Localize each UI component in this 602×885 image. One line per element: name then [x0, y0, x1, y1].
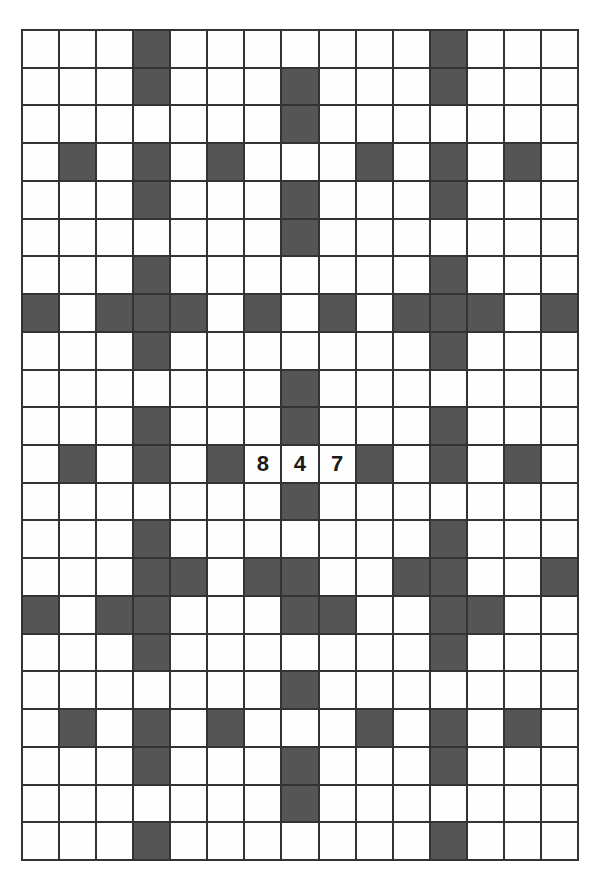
empty-cell[interactable] [357, 521, 392, 557]
empty-cell[interactable] [542, 484, 577, 520]
empty-cell[interactable] [171, 446, 206, 482]
empty-cell[interactable] [245, 182, 280, 218]
empty-cell[interactable] [357, 371, 392, 407]
empty-cell[interactable] [97, 559, 132, 595]
empty-cell[interactable] [394, 823, 429, 859]
empty-cell[interactable] [542, 672, 577, 708]
empty-cell[interactable] [245, 823, 280, 859]
empty-cell[interactable] [23, 31, 58, 67]
empty-cell[interactable] [320, 710, 355, 746]
empty-cell[interactable] [468, 69, 503, 105]
empty-cell[interactable] [357, 672, 392, 708]
empty-cell[interactable] [468, 182, 503, 218]
empty-cell[interactable] [542, 220, 577, 256]
empty-cell[interactable] [320, 748, 355, 784]
empty-cell[interactable] [23, 69, 58, 105]
empty-cell[interactable] [505, 408, 540, 444]
empty-cell[interactable] [505, 484, 540, 520]
empty-cell[interactable] [171, 823, 206, 859]
empty-cell[interactable] [357, 220, 392, 256]
empty-cell[interactable] [320, 823, 355, 859]
empty-cell[interactable] [357, 408, 392, 444]
empty-cell[interactable] [208, 408, 243, 444]
empty-cell[interactable] [357, 597, 392, 633]
empty-cell[interactable] [394, 106, 429, 142]
empty-cell[interactable] [60, 823, 95, 859]
empty-cell[interactable] [431, 484, 466, 520]
empty-cell[interactable] [394, 672, 429, 708]
empty-cell[interactable] [60, 69, 95, 105]
empty-cell[interactable] [245, 786, 280, 822]
empty-cell[interactable] [282, 257, 317, 293]
empty-cell[interactable] [468, 31, 503, 67]
empty-cell[interactable] [357, 748, 392, 784]
empty-cell[interactable] [505, 521, 540, 557]
empty-cell[interactable] [505, 69, 540, 105]
empty-cell[interactable] [245, 69, 280, 105]
empty-cell[interactable] [394, 446, 429, 482]
empty-cell[interactable] [542, 597, 577, 633]
empty-cell[interactable] [171, 521, 206, 557]
empty-cell[interactable] [245, 408, 280, 444]
empty-cell[interactable] [97, 144, 132, 180]
empty-cell[interactable] [394, 635, 429, 671]
empty-cell[interactable] [97, 521, 132, 557]
empty-cell[interactable] [320, 559, 355, 595]
empty-cell[interactable] [468, 106, 503, 142]
empty-cell[interactable] [60, 182, 95, 218]
empty-cell[interactable] [97, 257, 132, 293]
empty-cell[interactable] [394, 484, 429, 520]
empty-cell[interactable] [208, 672, 243, 708]
empty-cell[interactable] [171, 220, 206, 256]
empty-cell[interactable] [394, 408, 429, 444]
empty-cell[interactable] [60, 521, 95, 557]
empty-cell[interactable] [282, 295, 317, 331]
empty-cell[interactable] [208, 257, 243, 293]
empty-cell[interactable] [431, 220, 466, 256]
empty-cell[interactable] [97, 408, 132, 444]
empty-cell[interactable] [542, 823, 577, 859]
empty-cell[interactable] [542, 408, 577, 444]
empty-cell[interactable] [97, 31, 132, 67]
empty-cell[interactable] [394, 182, 429, 218]
empty-cell[interactable] [468, 635, 503, 671]
empty-cell[interactable] [282, 823, 317, 859]
empty-cell[interactable] [357, 823, 392, 859]
empty-cell[interactable] [357, 333, 392, 369]
empty-cell[interactable] [134, 672, 169, 708]
empty-cell[interactable] [542, 748, 577, 784]
empty-cell[interactable] [245, 597, 280, 633]
empty-cell[interactable] [171, 672, 206, 708]
empty-cell[interactable] [542, 786, 577, 822]
empty-cell[interactable] [245, 31, 280, 67]
empty-cell[interactable] [431, 672, 466, 708]
empty-cell[interactable] [23, 333, 58, 369]
empty-cell[interactable] [394, 69, 429, 105]
empty-cell[interactable] [505, 257, 540, 293]
empty-cell[interactable] [60, 31, 95, 67]
empty-cell[interactable] [505, 31, 540, 67]
empty-cell[interactable] [505, 786, 540, 822]
empty-cell[interactable] [208, 295, 243, 331]
empty-cell[interactable] [357, 484, 392, 520]
empty-cell[interactable] [505, 182, 540, 218]
empty-cell[interactable] [23, 710, 58, 746]
empty-cell[interactable] [171, 597, 206, 633]
empty-cell[interactable] [60, 672, 95, 708]
empty-cell[interactable] [208, 106, 243, 142]
empty-cell[interactable] [97, 106, 132, 142]
empty-cell[interactable] [468, 220, 503, 256]
empty-cell[interactable] [542, 521, 577, 557]
empty-cell[interactable] [208, 597, 243, 633]
empty-cell[interactable] [394, 748, 429, 784]
empty-cell[interactable] [542, 257, 577, 293]
empty-cell[interactable] [23, 408, 58, 444]
empty-cell[interactable] [505, 333, 540, 369]
empty-cell[interactable] [60, 106, 95, 142]
empty-cell[interactable] [208, 333, 243, 369]
empty-cell[interactable] [23, 672, 58, 708]
empty-cell[interactable] [320, 31, 355, 67]
empty-cell[interactable] [505, 748, 540, 784]
empty-cell[interactable] [23, 371, 58, 407]
empty-cell[interactable] [468, 672, 503, 708]
